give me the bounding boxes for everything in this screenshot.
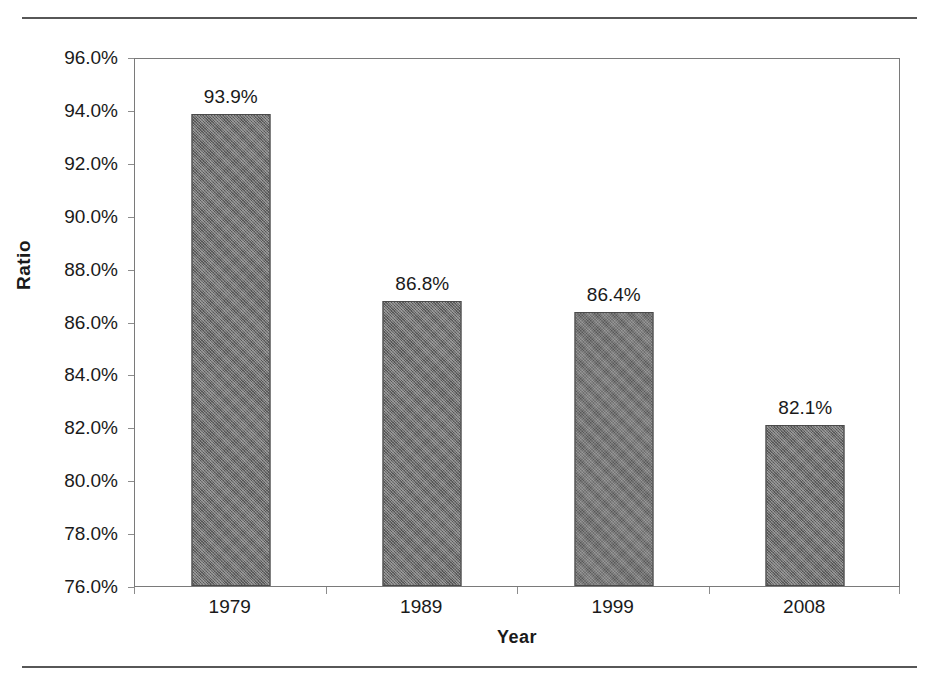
y-axis-tick-label: 78.0% bbox=[64, 523, 118, 545]
bar[interactable] bbox=[383, 301, 462, 586]
y-axis-tick-label: 92.0% bbox=[64, 153, 118, 175]
x-axis-tick-mark bbox=[899, 587, 900, 594]
y-axis-tick-label: 84.0% bbox=[64, 364, 118, 386]
y-axis-tick-label: 94.0% bbox=[64, 100, 118, 122]
x-axis-tick-label: 1979 bbox=[134, 596, 326, 618]
y-axis-tick-label: 88.0% bbox=[64, 259, 118, 281]
x-axis-tick-label: 2008 bbox=[709, 596, 901, 618]
bar[interactable] bbox=[191, 114, 270, 586]
bar[interactable] bbox=[766, 425, 845, 586]
y-axis-tick-label: 82.0% bbox=[64, 417, 118, 439]
x-axis-tick-labels: 1979198919992008 bbox=[134, 596, 900, 624]
x-axis-tick-mark bbox=[326, 587, 327, 594]
y-axis-tick-label: 96.0% bbox=[64, 47, 118, 69]
bar[interactable] bbox=[574, 312, 653, 586]
x-axis-tick-label: 1999 bbox=[517, 596, 709, 618]
bar-value-label: 82.1% bbox=[778, 397, 832, 419]
x-axis-tick-mark bbox=[517, 587, 518, 594]
bar-value-label: 86.8% bbox=[395, 273, 449, 295]
x-axis-tick-label: 1989 bbox=[326, 596, 518, 618]
bar-value-label: 86.4% bbox=[587, 284, 641, 306]
bar-group: 93.9% bbox=[135, 59, 327, 586]
bar-group: 86.8% bbox=[327, 59, 519, 586]
x-axis-tick-mark bbox=[709, 587, 710, 594]
x-axis-tick-mark bbox=[134, 587, 135, 594]
x-axis-title: Year bbox=[134, 627, 900, 648]
y-axis-tick-label: 80.0% bbox=[64, 470, 118, 492]
y-axis-tick-label: 76.0% bbox=[64, 576, 118, 598]
bar-value-label: 93.9% bbox=[204, 86, 258, 108]
y-axis-tick-labels: 96.0%94.0%92.0%90.0%88.0%86.0%84.0%82.0%… bbox=[40, 58, 126, 587]
bar-group: 82.1% bbox=[710, 59, 902, 586]
bar-group: 86.4% bbox=[518, 59, 710, 586]
y-axis-title: Ratio bbox=[13, 240, 35, 290]
x-axis-ticks bbox=[134, 587, 900, 595]
page-rule-bottom bbox=[22, 666, 917, 668]
bar-chart: Ratio 96.0%94.0%92.0%90.0%88.0%86.0%84.0… bbox=[0, 0, 939, 683]
bars-layer: 93.9%86.8%86.4%82.1% bbox=[135, 59, 899, 586]
y-axis-tick-label: 90.0% bbox=[64, 206, 118, 228]
y-axis-tick-label: 86.0% bbox=[64, 312, 118, 334]
